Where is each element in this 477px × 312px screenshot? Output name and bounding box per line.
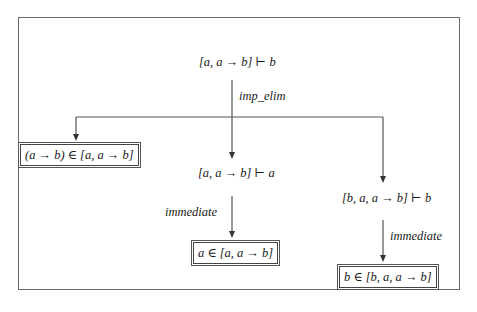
arrowhead-middle <box>229 152 235 159</box>
middle-leaf-text: a ∈ [a, a → b] <box>198 246 273 260</box>
left-leaf-box: (a → b) ∈ [a, a → b] <box>18 142 141 168</box>
root-sequent: [a, a → b] ⊢ b <box>199 54 276 70</box>
arrowhead-right <box>380 176 386 183</box>
right-leaf-text: b ∈ [b, a, a → b] <box>344 270 432 284</box>
middle-leaf-box: a ∈ [a, a → b] <box>191 240 280 266</box>
middle-leaf: a ∈ [a, a → b] <box>193 242 278 264</box>
root-sequent-text: [a, a → b] ⊢ b <box>199 55 276 69</box>
middle-sequent: [a, a → b] ⊢ a <box>198 165 275 181</box>
rule-label-imp-elim: imp_elim <box>239 89 286 104</box>
left-leaf: (a → b) ∈ [a, a → b] <box>20 144 139 166</box>
arrowhead-left <box>73 134 79 141</box>
right-leaf-box: b ∈ [b, a, a → b] <box>337 264 439 290</box>
right-sequent-text: [b, a, a → b] ⊢ b <box>342 191 431 205</box>
right-leaf: b ∈ [b, a, a → b] <box>339 266 437 288</box>
rule-label-immediate-middle: immediate <box>165 205 217 220</box>
arrowhead-right-leaf <box>380 255 386 262</box>
right-sequent: [b, a, a → b] ⊢ b <box>342 190 431 206</box>
middle-sequent-text: [a, a → b] ⊢ a <box>198 166 275 180</box>
left-leaf-text: (a → b) ∈ [a, a → b] <box>25 148 134 162</box>
arrowhead-middle-leaf <box>229 231 235 238</box>
rule-label-immediate-right: immediate <box>390 229 442 244</box>
